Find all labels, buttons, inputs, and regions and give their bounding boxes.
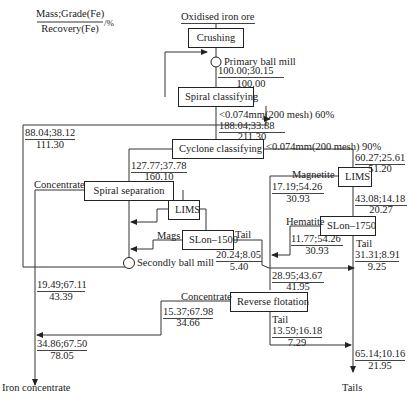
spiral-separation-box: Spiral separation	[84, 181, 174, 201]
spiral-classifying-box: Spiral classifying	[178, 87, 254, 107]
stream-final-conc-r: 78.05	[37, 350, 87, 362]
feed-label: Oxidised iron ore	[181, 11, 255, 24]
spiral-concentrate-label: Concentrate	[34, 179, 85, 191]
rf-concentrate-label: Concentrate	[181, 291, 232, 303]
stream-primary-mill-r: 100.00	[218, 78, 284, 90]
slon1500-tail-label: Tail	[235, 229, 251, 241]
secondly-ball-mill-icon	[124, 258, 135, 269]
stream-spiral-overflow-r: 211.30	[219, 131, 285, 143]
legend-numerator: Mass;Grade(Fe)	[36, 8, 104, 20]
iron-concentrate-label: Iron concentrate	[2, 382, 71, 394]
stream-primary-mill-mg: 100.00;30.15	[218, 65, 284, 78]
reverse-flotation-box: Reverse flotation	[230, 292, 308, 312]
lims-1-box: LIMS	[168, 200, 200, 220]
stream-spiral-underflow-r: 111.30	[25, 139, 75, 151]
stream-cyclone-overflow-r: 51.20	[355, 163, 405, 175]
mags-label: Mags	[157, 230, 180, 242]
secondly-ball-mill-label: Secondly ball mill	[137, 257, 214, 269]
stream-magnetite-r: 30.93	[272, 193, 324, 205]
crushing-box: Crushing	[188, 28, 244, 48]
stream-lims2-tail-r: 20.27	[355, 204, 407, 216]
tails-label: Tails	[342, 382, 362, 394]
legend-unit: /%	[104, 17, 114, 29]
stream-rf-conc-r: 34.66	[163, 317, 213, 329]
stream-hematite-r: 30.93	[291, 245, 343, 257]
stream-rf-tail-r: 7.29	[272, 337, 322, 349]
stream-slon1500-tail-r: 5.40	[216, 261, 262, 273]
stream-rf-feed-r: 41.95	[272, 281, 324, 293]
stream-spiral-conc-r: 43.39	[37, 291, 85, 303]
stream-slon1750-tail-r: 9.25	[355, 261, 399, 273]
magnetite-label: Magnetite	[292, 169, 335, 181]
legend-denominator: Recovery(Fe)	[36, 23, 104, 35]
stream-cyclone-underflow-r: 160.10	[131, 171, 187, 183]
stream-final-tails-r: 21.95	[355, 360, 405, 372]
slon-1500-box: SLon–1500	[182, 230, 234, 250]
hematite-label: Hematite	[286, 216, 324, 228]
